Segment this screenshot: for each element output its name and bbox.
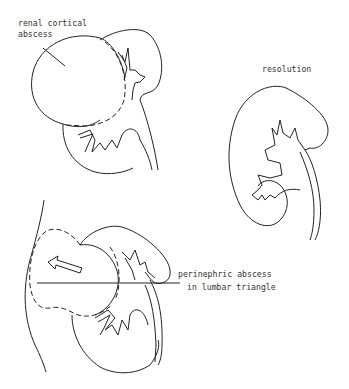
- renal-cortical-abscess-figure: [32, 30, 162, 174]
- label-perinephric-line1: perinephric abscess: [178, 269, 272, 279]
- label-pointer-top: [43, 48, 65, 66]
- label-resolution: resolution: [262, 64, 311, 74]
- body-wall: [25, 200, 46, 372]
- calyx-lower-top: [78, 129, 140, 152]
- label-renal-cortical-abscess-line2: abscess: [18, 29, 53, 39]
- kidney-outline-resolution: [229, 86, 290, 225]
- original-kidney-border-top: [65, 42, 125, 126]
- label-perinephric-line2: in lumbar triangle: [187, 282, 276, 292]
- calyx-resolution: [252, 120, 305, 200]
- arrow-icon: [48, 256, 82, 273]
- ureter-top: [140, 140, 152, 170]
- resolution-figure: [229, 86, 328, 240]
- perinephric-abscess-figure: [25, 200, 180, 373]
- abscess-circle: [32, 36, 100, 127]
- abscess-extension-dashed: [30, 229, 112, 316]
- calyx-lower-bottom: [95, 310, 148, 335]
- label-renal-cortical-abscess-line1: renal cortical: [18, 18, 87, 28]
- kidney-abscess-diagram: renal cortical abscess resolution: [0, 0, 349, 389]
- kidney-outline-top: [63, 30, 162, 174]
